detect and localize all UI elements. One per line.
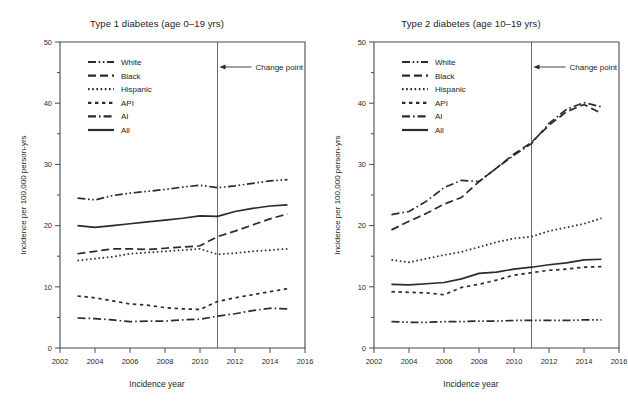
x-tick-label: 2014: [576, 357, 593, 366]
series-line-black: [392, 104, 602, 229]
legend-label-all: All: [121, 126, 130, 135]
y-axis-label: Incidence per 100,000 person-yrs: [333, 135, 342, 254]
y-tick-label: 10: [358, 283, 366, 292]
panel-right-xlabel: Incidence year: [314, 379, 628, 389]
legend-label-white: White: [121, 58, 142, 67]
y-tick-label: 40: [358, 99, 366, 108]
y-tick-label: 50: [44, 38, 52, 47]
series-line-white: [78, 180, 288, 200]
y-tick-label: 20: [358, 221, 366, 230]
y-axis-label: Incidence per 100,000 person-yrs: [19, 135, 28, 254]
series-line-black: [78, 214, 288, 254]
series-line-api: [78, 289, 288, 310]
series-line-ai: [392, 103, 602, 215]
legend-label-api: API: [435, 99, 448, 108]
y-tick-label: 0: [362, 344, 366, 353]
x-tick-label: 2010: [506, 357, 523, 366]
x-tick-label: 2012: [541, 357, 558, 366]
y-tick-label: 30: [44, 160, 52, 169]
legend-label-api: API: [121, 99, 134, 108]
panel-right: Type 2 diabetes (age 10–19 yrs) 01020304…: [314, 0, 628, 417]
figure-container: Type 1 diabetes (age 0–19 yrs) 010203040…: [0, 0, 628, 417]
panel-left-xlabel: Incidence year: [0, 379, 314, 389]
x-tick-label: 2008: [471, 357, 488, 366]
x-tick-label: 2002: [366, 357, 383, 366]
change-point-label: Change point: [570, 63, 618, 72]
series-line-ai: [78, 308, 288, 321]
x-tick-label: 2004: [401, 357, 418, 366]
series-line-hispanic: [78, 249, 288, 261]
panel-left: Type 1 diabetes (age 0–19 yrs) 010203040…: [0, 0, 314, 417]
x-tick-label: 2002: [52, 357, 69, 366]
legend-label-hispanic: Hispanic: [435, 85, 466, 94]
legend-label-black: Black: [435, 72, 456, 81]
panel-left-plot: 0102030405020022004200620082010201220142…: [0, 0, 314, 417]
x-tick-label: 2004: [87, 357, 104, 366]
y-tick-label: 40: [44, 99, 52, 108]
y-tick-label: 20: [44, 221, 52, 230]
panel-right-plot: 0102030405020022004200620082010201220142…: [314, 0, 628, 417]
series-line-white: [392, 320, 602, 322]
legend-label-white: White: [435, 58, 456, 67]
y-tick-label: 30: [358, 160, 366, 169]
legend-label-black: Black: [121, 72, 142, 81]
y-tick-label: 0: [48, 344, 52, 353]
series-line-hispanic: [392, 218, 602, 262]
y-tick-label: 10: [44, 283, 52, 292]
legend-label-hispanic: Hispanic: [121, 85, 152, 94]
legend-label-ai: AI: [121, 112, 129, 121]
change-point-label: Change point: [256, 63, 304, 72]
series-line-api: [392, 267, 602, 295]
x-tick-label: 2008: [157, 357, 174, 366]
x-tick-label: 2006: [122, 357, 139, 366]
y-tick-label: 50: [358, 38, 366, 47]
legend-label-ai: AI: [435, 112, 443, 121]
x-tick-label: 2016: [297, 357, 314, 366]
x-tick-label: 2010: [192, 357, 209, 366]
x-tick-label: 2014: [262, 357, 279, 366]
x-tick-label: 2016: [611, 357, 628, 366]
x-tick-label: 2006: [436, 357, 453, 366]
x-tick-label: 2012: [227, 357, 244, 366]
series-line-all: [392, 259, 602, 285]
legend-label-all: All: [435, 126, 444, 135]
